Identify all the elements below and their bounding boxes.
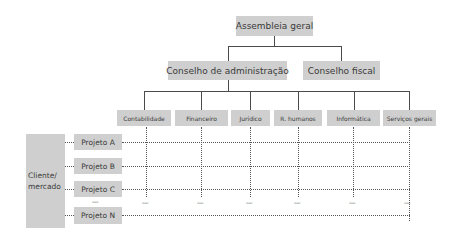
ellipsis-projects: --- — [92, 199, 98, 206]
connector-council-fiscal-vertical — [341, 46, 342, 61]
cliente-mercado-box: Cliente/ mercado — [26, 134, 65, 228]
dotted-column-1 — [146, 127, 147, 197]
dotted-client-link-a — [65, 142, 74, 143]
connector-admin-vertical — [228, 80, 229, 91]
connector-councils-horizontal — [228, 46, 342, 47]
dotted-column-4 — [298, 127, 299, 197]
connector-dept-6 — [409, 91, 410, 110]
ellipsis-column-5: --- — [349, 200, 355, 207]
connector-dept-3 — [250, 91, 251, 110]
conselho-fiscal-label: Conselho fiscal — [308, 66, 376, 76]
connector-council-admin-vertical — [228, 46, 229, 61]
ellipsis-column-4: --- — [294, 200, 300, 207]
connector-dept-2 — [201, 91, 202, 110]
ellipsis-column-6: --- — [404, 200, 410, 207]
assembleia-geral-box: Assembleia geral — [236, 16, 313, 36]
dotted-row-c — [122, 189, 410, 190]
ellipsis-column-2: --- — [197, 200, 203, 207]
department-financeiro: Financeiro — [175, 110, 228, 126]
connector-dept-4 — [298, 91, 299, 110]
connector-top-vertical — [274, 36, 275, 46]
project-b-box: Projeto B — [74, 158, 122, 174]
dotted-column-3 — [250, 127, 251, 197]
department-label: Contabilidade — [123, 115, 165, 122]
department-r-humanos: R. humanos — [274, 110, 322, 126]
project-n-box: Projeto N — [74, 207, 122, 224]
dotted-client-link-c — [65, 189, 74, 190]
project-label: Projeto B — [81, 162, 115, 171]
conselho-administracao-label: Conselho de administração — [166, 66, 289, 76]
department-label: Serviços gerais — [387, 115, 433, 122]
connector-departments-horizontal — [144, 91, 410, 92]
project-label: Projeto A — [81, 138, 115, 147]
conselho-fiscal-box: Conselho fiscal — [303, 61, 380, 80]
dotted-row-n — [122, 215, 410, 216]
department-label: Financeiro — [186, 115, 217, 122]
department-juridico: Jurídico — [231, 110, 270, 126]
department-informatica: Informática — [327, 110, 380, 126]
department-contabilidade: Contabilidade — [117, 110, 171, 126]
dotted-column-5 — [353, 127, 354, 197]
connector-dept-5 — [354, 91, 355, 110]
project-label: Projeto C — [81, 185, 115, 194]
ellipsis-column-3: --- — [246, 200, 252, 207]
project-label: Projeto N — [81, 211, 115, 220]
department-label: Jurídico — [239, 115, 261, 122]
assembleia-geral-label: Assembleia geral — [236, 21, 313, 31]
cliente-mercado-label: Cliente/ mercado — [28, 170, 65, 192]
connector-dept-1 — [144, 91, 145, 110]
department-label: Informática — [336, 115, 370, 122]
department-servicos-gerais: Serviços gerais — [383, 110, 436, 126]
dotted-column-2 — [201, 127, 202, 197]
dotted-row-a — [122, 142, 410, 143]
conselho-administracao-box: Conselho de administração — [168, 61, 287, 80]
dotted-row-b — [122, 166, 410, 167]
dotted-client-link-n — [65, 215, 74, 216]
project-c-box: Projeto C — [74, 181, 122, 197]
department-label: R. humanos — [280, 115, 316, 122]
ellipsis-column-1: --- — [142, 200, 148, 207]
project-a-box: Projeto A — [74, 134, 122, 150]
dotted-client-link-b — [65, 166, 74, 167]
